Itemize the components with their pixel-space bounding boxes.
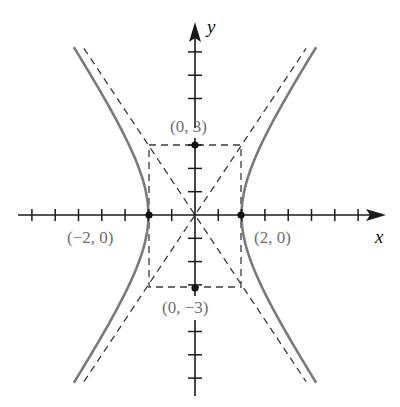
vertex-right (237, 211, 244, 218)
hyperbola-figure: y x (0, 3) (0, −3) (−2, 0) (2, 0) (0, 0, 400, 407)
x-axis-label: x (374, 226, 384, 247)
vertex-left (145, 211, 152, 218)
label-top-point: (0, 3) (170, 117, 207, 136)
label-right-vertex: (2, 0) (254, 228, 291, 247)
point-bottom (191, 284, 198, 291)
label-left-vertex: (−2, 0) (67, 228, 113, 247)
y-axis-label: y (205, 16, 216, 37)
point-top (191, 141, 198, 148)
label-bottom-point: (0, −3) (162, 298, 208, 317)
